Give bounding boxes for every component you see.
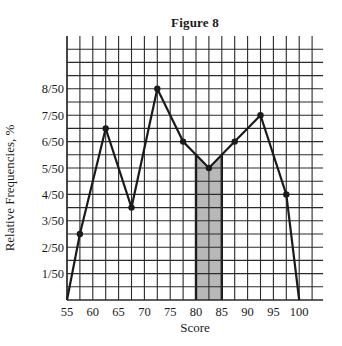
chart-plot-area: 556065707580859095100 1/502/503/504/505/… bbox=[0, 0, 342, 346]
data-point-marker bbox=[128, 204, 134, 210]
y-axis-label: Relative Frequencies, % bbox=[2, 88, 18, 288]
data-point-marker bbox=[283, 191, 289, 197]
x-tick-label: 55 bbox=[61, 305, 74, 319]
y-tick-label: 5/50 bbox=[42, 162, 64, 176]
data-point-marker bbox=[180, 138, 186, 144]
y-tick-label: 1/50 bbox=[42, 267, 64, 281]
chart-figure: Figure 8 556065707580859095100 1/502/503… bbox=[0, 0, 342, 346]
y-tick-label: 8/50 bbox=[42, 82, 64, 96]
data-point-marker bbox=[232, 138, 238, 144]
x-tick-label: 75 bbox=[164, 305, 177, 319]
y-axis-tick-labels: 1/502/503/504/505/506/507/508/50 bbox=[42, 82, 64, 281]
y-tick-label: 4/50 bbox=[42, 188, 64, 202]
data-point-marker bbox=[103, 125, 109, 131]
x-axis-tick-labels: 556065707580859095100 bbox=[61, 305, 309, 319]
y-tick-label: 2/50 bbox=[42, 241, 64, 255]
x-tick-label: 65 bbox=[112, 305, 125, 319]
y-tick-label: 3/50 bbox=[42, 214, 64, 228]
x-tick-label: 95 bbox=[267, 305, 280, 319]
grid-lines bbox=[67, 36, 323, 300]
x-tick-label: 80 bbox=[190, 305, 203, 319]
data-point-marker bbox=[154, 86, 160, 92]
x-tick-label: 60 bbox=[87, 305, 100, 319]
x-tick-label: 100 bbox=[290, 305, 309, 319]
x-axis-label: Score bbox=[0, 320, 342, 336]
data-point-marker bbox=[257, 112, 263, 118]
x-tick-label: 85 bbox=[216, 305, 229, 319]
data-point-marker bbox=[77, 231, 83, 237]
data-point-marker bbox=[206, 165, 212, 171]
y-tick-label: 7/50 bbox=[42, 109, 64, 123]
x-tick-label: 90 bbox=[241, 305, 254, 319]
x-tick-label: 70 bbox=[138, 305, 151, 319]
y-tick-label: 6/50 bbox=[42, 135, 64, 149]
